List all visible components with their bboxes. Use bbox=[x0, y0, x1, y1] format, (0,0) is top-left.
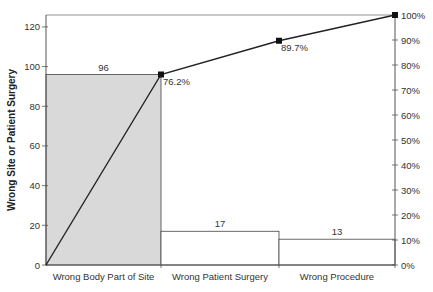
right-tick-label: 30% bbox=[401, 185, 421, 196]
right-tick-label: 70% bbox=[401, 85, 421, 96]
bar-value-label: 13 bbox=[332, 226, 343, 237]
left-tick-label: 80 bbox=[29, 101, 40, 112]
right-tick-label: 50% bbox=[401, 135, 421, 146]
bar-value-label: 17 bbox=[215, 218, 226, 229]
bar-2 bbox=[161, 231, 279, 265]
right-tick-label: 20% bbox=[401, 210, 421, 221]
left-tick-label: 100 bbox=[24, 61, 40, 72]
right-tick-label: 10% bbox=[401, 235, 421, 246]
right-tick-label: 0% bbox=[401, 260, 415, 271]
category-labels: Wrong Body Part of SiteWrong Patient Sur… bbox=[53, 265, 395, 282]
cumulative-marker bbox=[392, 12, 398, 18]
right-tick-label: 90% bbox=[401, 35, 421, 46]
category-label: Wrong Body Part of Site bbox=[53, 271, 155, 282]
right-tick-label: 80% bbox=[401, 60, 421, 71]
left-tick-label: 40 bbox=[29, 180, 40, 191]
right-tick-label: 40% bbox=[401, 160, 421, 171]
right-tick-label: 100% bbox=[401, 10, 426, 21]
right-y-axis: 0%10%20%30%40%50%60%70%80%90%100% bbox=[392, 10, 426, 271]
left-y-axis: 020406080100120 bbox=[24, 15, 48, 271]
left-tick-label: 0 bbox=[35, 260, 40, 271]
bar-value-label: 96 bbox=[98, 62, 109, 73]
cumulative-label: 76.2% bbox=[163, 76, 190, 87]
bar-3 bbox=[279, 239, 395, 265]
right-tick-label: 60% bbox=[401, 110, 421, 121]
category-label: Wrong Procedure bbox=[300, 271, 374, 282]
left-tick-label: 60 bbox=[29, 140, 40, 151]
left-tick-label: 120 bbox=[24, 21, 40, 32]
category-label: Wrong Patient Surgery bbox=[172, 271, 268, 282]
y-axis-title: Wrong Site or Patient Surgery bbox=[6, 69, 17, 211]
pareto-chart: 961713 020406080100120 0%10%20%30%40%50%… bbox=[0, 0, 433, 292]
bars: 961713 bbox=[46, 62, 395, 265]
left-tick-label: 20 bbox=[29, 220, 40, 231]
cumulative-label: 89.7% bbox=[281, 42, 308, 53]
